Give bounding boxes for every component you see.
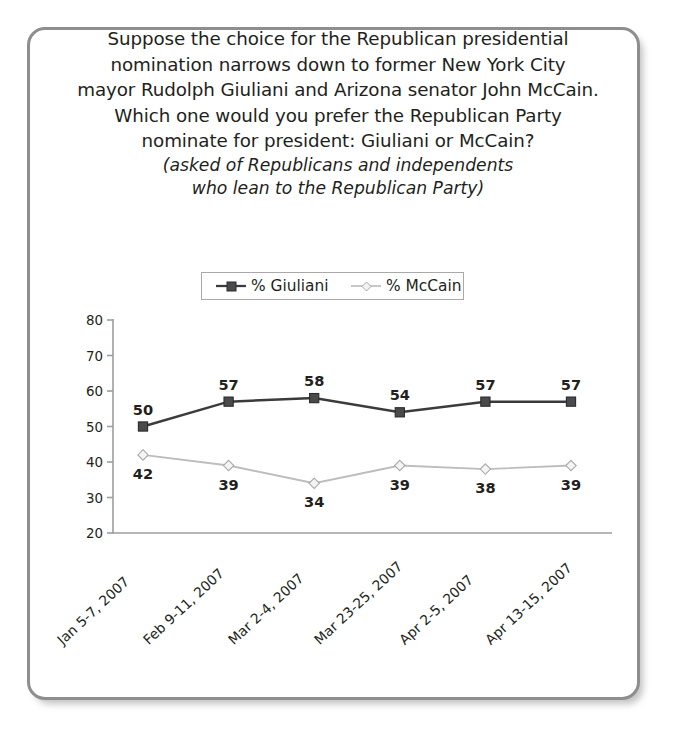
y-axis-tick-label: 60 xyxy=(77,384,103,399)
data-point-label: 39 xyxy=(554,476,588,493)
data-point-label: 38 xyxy=(468,479,502,496)
y-axis-tick-label: 30 xyxy=(77,490,103,505)
data-point-label: 50 xyxy=(126,401,160,418)
data-point-label: 57 xyxy=(468,376,502,393)
data-point-label: 58 xyxy=(297,372,331,389)
y-axis-tick-label: 50 xyxy=(77,419,103,434)
plot-area: 20304050607080 423934393839505758545757 … xyxy=(0,0,676,740)
data-point-label: 39 xyxy=(212,476,246,493)
data-point-label: 54 xyxy=(383,386,417,403)
y-axis-tick-label: 20 xyxy=(77,526,103,541)
data-point-label: 39 xyxy=(383,476,417,493)
y-axis-tick-label: 40 xyxy=(77,455,103,470)
data-point-label: 42 xyxy=(126,465,160,482)
y-axis-tick-label: 80 xyxy=(77,313,103,328)
data-point-label: 34 xyxy=(297,493,331,510)
data-point-label: 57 xyxy=(554,376,588,393)
data-point-label: 57 xyxy=(212,376,246,393)
y-axis-tick-label: 70 xyxy=(77,348,103,363)
